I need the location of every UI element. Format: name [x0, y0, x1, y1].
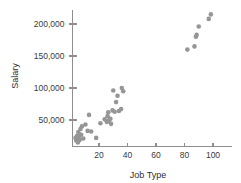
data-point — [98, 121, 103, 126]
data-point — [114, 100, 119, 105]
y-tick-label: 100,000 — [34, 83, 65, 93]
data-point — [206, 17, 211, 22]
data-point — [194, 33, 199, 38]
plot-canvas: 20406080100 50,000100,000150,000200,000 … — [0, 0, 241, 183]
y-axis-title: Salary — [10, 63, 20, 89]
x-tick-label: 40 — [123, 150, 133, 160]
axes-group — [73, 10, 233, 147]
scatter-plot-figure: 20406080100 50,000100,000150,000200,000 … — [0, 0, 241, 183]
data-point — [109, 122, 114, 127]
data-point — [81, 136, 86, 141]
x-axis-title: Job Type — [130, 170, 166, 180]
data-point — [89, 129, 94, 134]
x-axis-ticks: 20406080100 — [94, 143, 220, 160]
data-point — [196, 24, 201, 29]
x-tick-label: 60 — [151, 150, 161, 160]
data-point — [111, 88, 116, 93]
data-point — [106, 110, 111, 115]
x-tick-label: 20 — [94, 150, 104, 160]
data-point — [119, 107, 124, 112]
data-point — [192, 44, 197, 49]
data-point — [209, 12, 214, 17]
y-tick-label: 50,000 — [39, 115, 65, 125]
data-point — [83, 122, 88, 127]
data-points-group — [73, 12, 213, 145]
x-tick-label: 100 — [206, 150, 220, 160]
x-tick-label: 80 — [180, 150, 190, 160]
data-point — [112, 109, 117, 114]
y-axis-ticks: 50,000100,000150,000200,000 — [34, 19, 77, 125]
data-point — [108, 116, 113, 121]
data-point — [115, 93, 120, 98]
y-tick-label: 150,000 — [34, 51, 65, 61]
y-tick-label: 200,000 — [34, 19, 65, 29]
data-point — [185, 47, 190, 52]
data-point — [94, 136, 99, 141]
data-point — [121, 89, 126, 94]
data-point — [87, 113, 92, 118]
